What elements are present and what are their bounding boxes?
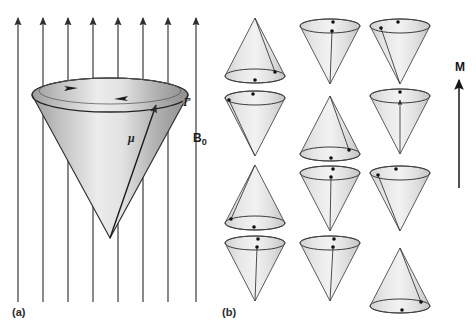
cone-r2c2: [300, 96, 360, 161]
cone-body: [225, 165, 285, 230]
phase-dot: [329, 175, 333, 179]
cone-r1c2: [300, 19, 360, 84]
phase-dot: [394, 167, 398, 171]
cone-r4c2: [300, 236, 360, 301]
figure-canvas: [0, 0, 476, 329]
precession-cone-a: [32, 78, 188, 238]
panel-a-label: (a): [12, 306, 25, 318]
phase-dot: [331, 245, 335, 249]
phase-dot: [398, 90, 402, 94]
phase-dot: [400, 308, 404, 312]
b0-label: B0: [193, 131, 207, 147]
b0-subscript: 0: [202, 137, 207, 147]
cone-r1c3: [370, 19, 430, 84]
cone-r2c1: [225, 91, 285, 156]
phase-dot: [252, 225, 256, 229]
mu-label: μ: [128, 131, 135, 146]
cone-r3c1: [225, 165, 285, 230]
cone-r3c2: [300, 166, 360, 231]
m-label: M: [455, 60, 465, 74]
cone-body: [300, 96, 360, 161]
phase-dot: [256, 237, 260, 241]
cone-body: [225, 91, 285, 156]
cone-body: [300, 236, 360, 301]
cone-body: [370, 19, 430, 84]
phase-dot: [396, 20, 400, 24]
phase-dot: [347, 148, 351, 152]
phase-dot: [379, 26, 383, 30]
figure-root: μ Γ B0 M (a) (b): [0, 0, 476, 329]
phase-dot: [273, 70, 277, 74]
phase-dot: [419, 300, 423, 304]
gamma-label: Γ: [183, 95, 190, 110]
cone-body: [32, 78, 188, 238]
cone-r4c3: [370, 248, 430, 313]
cone-r3c3: [370, 166, 430, 231]
phase-dot: [329, 156, 333, 160]
phase-dot: [376, 173, 380, 177]
phase-dot: [255, 245, 259, 249]
phase-dot: [227, 98, 231, 102]
cone-r4c1: [225, 236, 285, 301]
phase-dot: [332, 237, 336, 241]
phase-dot: [229, 217, 233, 221]
cone-r1c1: [225, 18, 285, 83]
phase-dot: [330, 29, 334, 33]
phase-dot: [331, 20, 335, 24]
phase-dot: [251, 92, 255, 96]
phase-dot: [331, 167, 335, 171]
cone-r2c3: [370, 89, 430, 154]
panel-b-label: (b): [222, 306, 236, 318]
phase-dot: [253, 78, 257, 82]
b0-base: B: [193, 131, 202, 145]
